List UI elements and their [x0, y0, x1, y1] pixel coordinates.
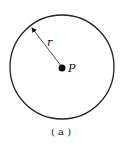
- diagram-canvas: P r ( a ): [0, 0, 122, 146]
- radius-label: r: [47, 36, 53, 49]
- figure-caption: ( a ): [51, 126, 71, 137]
- center-point-label: P: [67, 62, 76, 75]
- center-point-dot: [59, 65, 66, 72]
